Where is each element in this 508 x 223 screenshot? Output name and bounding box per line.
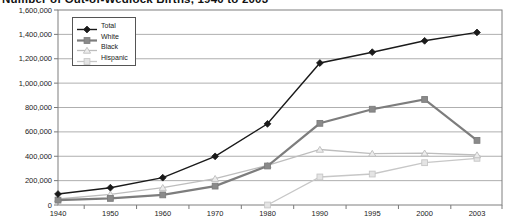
svg-text:1,200,000: 1,200,000 [19, 54, 52, 63]
legend-label-total: Total [101, 22, 116, 29]
legend-item-hispanic: Hispanic [76, 53, 132, 62]
legend-label-hispanic: Hispanic [101, 54, 128, 61]
svg-text:1970: 1970 [207, 209, 224, 218]
svg-text:1950: 1950 [102, 209, 119, 218]
black-series-marker-icon [76, 42, 98, 51]
total-series-marker-icon [76, 21, 98, 30]
svg-text:1940: 1940 [50, 209, 67, 218]
svg-text:2000: 2000 [416, 209, 433, 218]
legend-item-total: Total [76, 21, 132, 30]
svg-text:1,400,000: 1,400,000 [19, 30, 52, 39]
hispanic-series-marker-icon [76, 53, 98, 62]
svg-text:1,600,000: 1,600,000 [19, 6, 52, 15]
legend-item-black: Black [76, 42, 132, 51]
svg-text:600,000: 600,000 [25, 127, 52, 136]
legend-item-white: White [76, 32, 132, 41]
svg-text:400,000: 400,000 [25, 152, 52, 161]
svg-text:1960: 1960 [154, 209, 171, 218]
svg-text:1,000,000: 1,000,000 [19, 79, 52, 88]
chart-container: Number of Out-of-Wedlock Births, 1940 to… [0, 0, 508, 223]
white-series-marker-icon [76, 32, 98, 41]
legend-label-white: White [101, 33, 119, 40]
svg-text:2003: 2003 [469, 209, 486, 218]
svg-text:1990: 1990 [312, 209, 329, 218]
legend-label-black: Black [101, 43, 118, 50]
svg-text:1980: 1980 [259, 209, 276, 218]
svg-text:1995: 1995 [364, 209, 381, 218]
svg-text:200,000: 200,000 [25, 176, 52, 185]
chart-legend: Total White Black Hispanic [72, 17, 136, 66]
svg-text:800,000: 800,000 [25, 103, 52, 112]
